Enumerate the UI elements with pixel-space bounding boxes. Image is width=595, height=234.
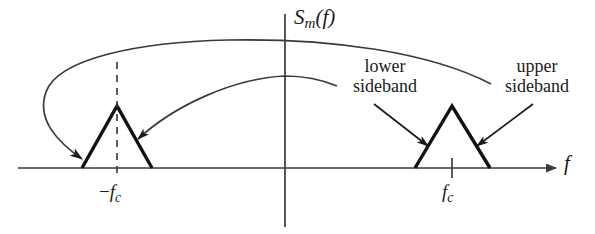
lower-sideband-pointer xyxy=(374,104,428,146)
lower-sideband-label-line1: lower xyxy=(337,56,433,76)
spectrum-vector-graphics xyxy=(0,0,595,234)
spectrum-figure: Sm(f) f −fc fc lowersideband uppersideba… xyxy=(0,0,595,234)
tick-label-positive-subscript: c xyxy=(447,190,453,205)
lower-sideband-label: lowersideband xyxy=(337,56,433,96)
upper-sideband-label-line2: sideband xyxy=(489,76,585,96)
upper-sideband-label: uppersideband xyxy=(489,56,585,96)
vertical-axis-label-symbol: S xyxy=(294,5,305,29)
vertical-axis-label-argument: (f) xyxy=(315,5,335,29)
lower-to-negative-sideband-curve xyxy=(138,76,337,139)
vertical-axis-label-subscript: m xyxy=(305,15,316,31)
upper-sideband-label-line1: upper xyxy=(489,56,585,76)
lower-sideband-label-line2: sideband xyxy=(337,76,433,96)
tick-label-positive-carrier: fc xyxy=(442,181,453,205)
tick-label-negative-sign: − xyxy=(99,181,110,202)
tick-label-negative-subscript: c xyxy=(115,190,121,205)
vertical-axis-label: Sm(f) xyxy=(294,6,335,32)
horizontal-axis-label: f xyxy=(564,152,570,176)
tick-label-negative-carrier: −fc xyxy=(99,181,121,205)
upper-sideband-pointer xyxy=(477,104,533,146)
